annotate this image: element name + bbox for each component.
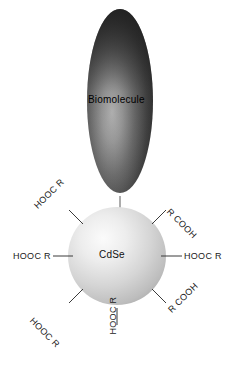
biomolecule-label: Biomolecule [88, 95, 145, 105]
connector-southwest [69, 289, 83, 303]
ligand-label-west: HOOC R [13, 252, 51, 261]
connector-southeast [152, 289, 166, 303]
ligand-label-south: HOOC R [109, 297, 118, 335]
cdse-core-label: CdSe [99, 250, 125, 260]
connector-northeast [152, 210, 166, 224]
connector-northwest [69, 210, 83, 224]
ligand-label-east: HOOC R [184, 252, 222, 261]
nanoparticle-bioconjugate-diagram: Biomolecule CdSe HOOC R HOOC R HOOC R R … [0, 0, 232, 376]
